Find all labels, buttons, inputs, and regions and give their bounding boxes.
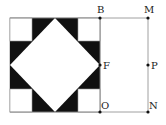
label-p: P — [151, 60, 158, 71]
label-n: N — [149, 100, 158, 111]
corner-square-bottom-right — [78, 89, 100, 112]
geometry-diagram: B M F P O N — [0, 0, 166, 125]
corner-square-top-left — [10, 18, 32, 41]
label-f: F — [103, 60, 110, 71]
point-b — [98, 16, 101, 19]
point-m — [146, 16, 149, 19]
point-p — [146, 63, 149, 66]
label-b: B — [97, 4, 104, 15]
point-f — [98, 63, 101, 66]
label-o: O — [101, 100, 109, 111]
corner-square-top-right — [78, 18, 100, 41]
corner-square-bottom-left — [10, 89, 32, 112]
labels: B M F P O N — [97, 4, 158, 111]
label-m: M — [144, 4, 154, 15]
